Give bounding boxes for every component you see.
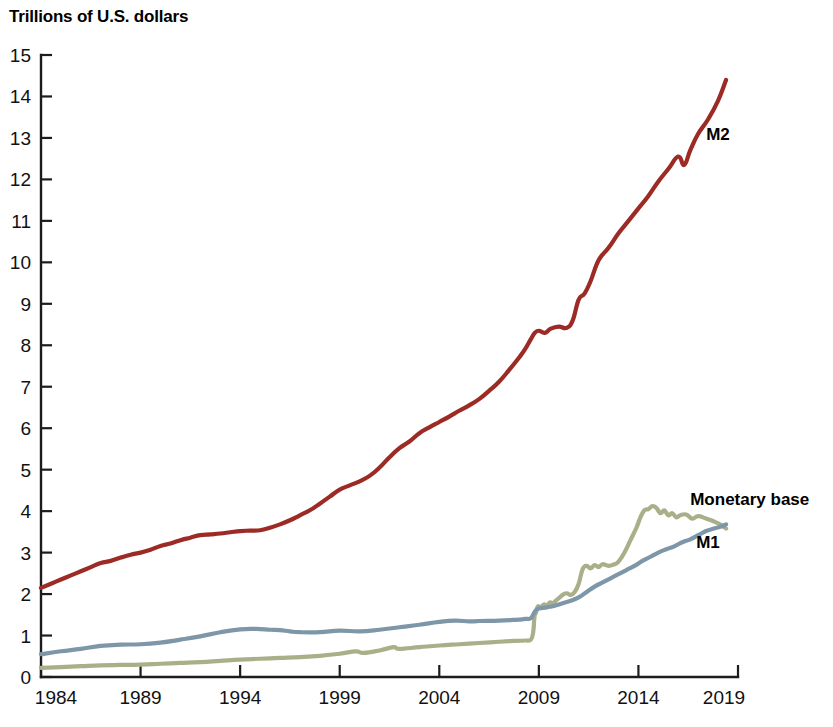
series-labels: M2Monetary baseM1: [690, 125, 809, 552]
x-axis-tick-label: 2009: [518, 687, 560, 708]
y-axis-tick-label: 2: [20, 584, 31, 605]
y-axis-tick-label: 3: [20, 543, 31, 564]
y-axis-tick-label: 13: [10, 128, 31, 149]
chart-plot-area: 1514131211109876543210 19841989199419992…: [0, 0, 833, 727]
series-lines: [41, 80, 726, 668]
x-axis: 19841989199419992004200920142019: [35, 665, 745, 708]
x-axis-tick-label: 2019: [703, 687, 745, 708]
y-axis-tick-label: 7: [20, 377, 31, 398]
y-axis-tick-label: 10: [10, 252, 31, 273]
x-axis-tick-label: 1989: [119, 687, 161, 708]
x-axis-tick-label: 1984: [35, 687, 78, 708]
y-axis: 1514131211109876543210: [10, 45, 52, 688]
y-axis-tick-label: 12: [10, 169, 31, 190]
y-axis-tick-label: 9: [20, 294, 31, 315]
series-label-monetary-base: Monetary base: [690, 490, 809, 509]
y-axis-tick-label: 5: [20, 460, 31, 481]
x-axis-tick-label: 1994: [219, 687, 262, 708]
series-line-m2: [41, 80, 726, 588]
y-axis-tick-label: 14: [10, 86, 32, 107]
y-axis-tick-label: 0: [20, 667, 31, 688]
x-axis-tick-label: 1999: [319, 687, 361, 708]
y-axis-tick-label: 6: [20, 418, 31, 439]
x-axis-tick-label: 2004: [418, 687, 461, 708]
y-axis-tick-label: 1: [20, 626, 31, 647]
series-line-m1: [41, 524, 726, 654]
series-label-m2: M2: [706, 125, 730, 144]
y-axis-tick-label: 11: [11, 211, 31, 232]
money-supply-chart: Trillions of U.S. dollars 15141312111098…: [0, 0, 833, 727]
y-axis-tick-label: 4: [20, 501, 31, 522]
series-label-m1: M1: [696, 533, 720, 552]
y-axis-tick-label: 8: [20, 335, 31, 356]
y-axis-tick-label: 15: [10, 45, 31, 66]
x-axis-tick-label: 2014: [617, 687, 660, 708]
